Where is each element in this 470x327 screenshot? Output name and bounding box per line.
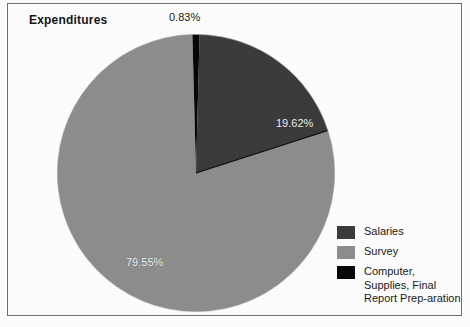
figure-page: Expenditures 0.83% 19.62% 79.55% Salarie… [0, 0, 470, 327]
legend-swatch-computer [337, 266, 355, 279]
slice-label-survey: 79.55% [126, 256, 163, 268]
figure-frame: Expenditures 0.83% 19.62% 79.55% Salarie… [7, 3, 462, 316]
legend-item-computer: Computer, Supplies, Final Report Prep-ar… [337, 265, 463, 306]
legend-label-computer: Computer, Supplies, Final Report Prep-ar… [364, 265, 463, 306]
slice-label-computer: 0.83% [169, 11, 200, 23]
legend-swatch-salaries [337, 226, 355, 239]
pie-chart: 19.62% 79.55% [57, 34, 335, 312]
legend: Salaries Survey Computer, Supplies, Fina… [337, 225, 463, 312]
legend-item-survey: Survey [337, 245, 463, 259]
page-title: Expenditures [29, 13, 107, 27]
legend-item-salaries: Salaries [337, 225, 463, 239]
pie-chart-svg [57, 34, 335, 312]
slice-label-salaries: 19.62% [276, 117, 313, 129]
legend-label-survey: Survey [364, 245, 398, 259]
legend-swatch-survey [337, 246, 355, 259]
legend-label-salaries: Salaries [364, 225, 404, 239]
